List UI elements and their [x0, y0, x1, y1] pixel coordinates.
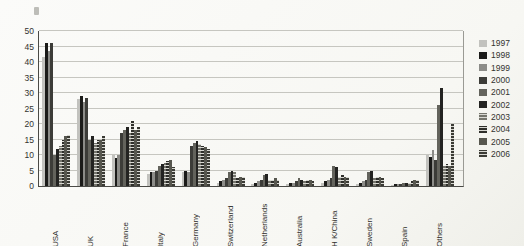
legend-item-2002: 2002 — [479, 98, 523, 110]
gridline — [39, 46, 463, 47]
y-axis-tick-label: 25 — [14, 105, 34, 113]
y-axis-tick-label: 20 — [14, 120, 34, 128]
legend-item-2003: 2003 — [479, 111, 523, 123]
y-axis-tick-label: 40 — [14, 58, 34, 66]
legend-label: 2002 — [491, 100, 510, 110]
legend-label: 1998 — [491, 50, 510, 60]
gridline — [39, 77, 463, 78]
bar-france-2006 — [137, 127, 140, 186]
x-axis-label-h-k-china: H K/China — [328, 191, 340, 246]
legend-label: 2003 — [491, 112, 510, 122]
gridline — [39, 108, 463, 109]
bar-sweden-2006 — [381, 178, 384, 186]
legend-label: 2004 — [491, 124, 510, 134]
legend-item-1997: 1997 — [479, 37, 523, 49]
legend-swatch-icon — [479, 113, 487, 120]
bar-uk-2006 — [102, 136, 105, 186]
scanned-bar-chart: 05101520253035404550 USAUKFranceItalyGer… — [0, 0, 524, 246]
x-axis-label-switzerland: Switzerland — [224, 191, 236, 246]
legend-swatch-icon — [479, 40, 487, 47]
y-axis-tick-label: 50 — [14, 27, 34, 35]
x-axis-label-spain: Spain — [398, 191, 410, 246]
legend-label: 2005 — [491, 137, 510, 147]
legend-label: 2000 — [491, 75, 510, 85]
legend-swatch-icon — [479, 150, 487, 157]
x-axis-label-france: France — [119, 191, 131, 246]
x-axis-label-sweden: Sweden — [363, 191, 375, 246]
y-axis-tick-label: 45 — [14, 43, 34, 51]
legend-swatch-icon — [479, 52, 487, 59]
legend-swatch-icon — [479, 64, 487, 71]
plot-area — [38, 31, 464, 187]
x-axis-label-netherlands: Netherlands — [258, 191, 270, 246]
legend-item-2000: 2000 — [479, 74, 523, 86]
bar-australia-2006 — [312, 181, 315, 186]
x-axis-label-germany: Germany — [189, 191, 201, 246]
legend-swatch-icon — [479, 101, 487, 108]
y-axis-tick-label: 5 — [14, 167, 34, 175]
legend-label: 1997 — [491, 38, 510, 48]
legend-swatch-icon — [479, 89, 487, 96]
y-axis-tick-label: 0 — [14, 182, 34, 190]
legend-label: 2001 — [491, 87, 510, 97]
y-axis-tick-label: 35 — [14, 74, 34, 82]
bar-germany-2006 — [207, 149, 210, 186]
bar-h-k-china-2006 — [346, 177, 349, 186]
legend: 1997199819992000200120022003200420052006 — [479, 37, 523, 160]
y-axis-tick-label: 10 — [14, 151, 34, 159]
bar-usa-2006 — [67, 135, 70, 186]
legend-item-2001: 2001 — [479, 86, 523, 98]
gridline — [39, 123, 463, 124]
x-axis-label-australia: Australia — [293, 191, 305, 246]
x-axis-label-uk: UK — [84, 191, 96, 246]
x-axis-label-others: Others — [433, 191, 445, 246]
legend-label: 2006 — [491, 149, 510, 159]
y-axis-tick-label: 15 — [14, 136, 34, 144]
legend-swatch-icon — [479, 77, 487, 84]
scan-artifact — [34, 7, 39, 15]
legend-item-2004: 2004 — [479, 123, 523, 135]
bar-netherlands-2006 — [277, 180, 280, 186]
bar-others-2006 — [451, 124, 454, 186]
gridline — [39, 61, 463, 62]
y-axis-tick-label: 30 — [14, 89, 34, 97]
bar-italy-2006 — [172, 167, 175, 186]
gridline — [39, 92, 463, 93]
x-axis-label-usa: USA — [49, 191, 61, 246]
bar-switzerland-2006 — [242, 177, 245, 186]
x-axis-label-italy: Italy — [154, 191, 166, 246]
legend-swatch-icon — [479, 138, 487, 145]
legend-label: 1999 — [491, 63, 510, 73]
gridline — [39, 30, 463, 31]
legend-item-1998: 1998 — [479, 49, 523, 61]
legend-item-1999: 1999 — [479, 62, 523, 74]
legend-swatch-icon — [479, 126, 487, 133]
legend-item-2005: 2005 — [479, 135, 523, 147]
bar-spain-2006 — [416, 180, 419, 186]
legend-item-2006: 2006 — [479, 148, 523, 160]
